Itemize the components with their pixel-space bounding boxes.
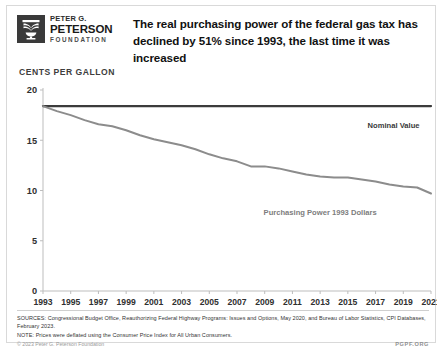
svg-text:0: 0 — [32, 286, 37, 296]
methodology-note: NOTE: Prices were deflated using the Con… — [17, 331, 429, 339]
sources-note: SOURCES: Congressional Budget Office, Re… — [17, 314, 429, 331]
brand-line-3: FOUNDATION — [50, 37, 112, 43]
svg-text:10: 10 — [27, 186, 37, 196]
svg-text:15: 15 — [27, 136, 37, 146]
svg-text:2019: 2019 — [394, 297, 413, 307]
svg-text:Nominal Value: Nominal Value — [368, 121, 420, 130]
chart-title: The real purchasing power of the federal… — [133, 16, 425, 66]
svg-text:1997: 1997 — [89, 297, 108, 307]
svg-text:2015: 2015 — [338, 297, 357, 307]
svg-text:1993: 1993 — [33, 297, 52, 307]
svg-text:1995: 1995 — [61, 297, 80, 307]
chart-header: PETER G. PETERSON FOUNDATION The real pu… — [7, 6, 435, 58]
footer-bottom-row: © 2023 Peter G. Peterson Foundation PGPF… — [17, 341, 429, 347]
svg-text:2001: 2001 — [144, 297, 163, 307]
svg-text:2009: 2009 — [255, 297, 274, 307]
y-axis-caption: Cents Per Gallon — [19, 67, 115, 77]
svg-text:2007: 2007 — [227, 297, 246, 307]
svg-text:2003: 2003 — [172, 297, 191, 307]
svg-text:2005: 2005 — [200, 297, 219, 307]
svg-text:2021: 2021 — [421, 297, 437, 307]
brand-line-2: PETERSON — [50, 24, 112, 36]
brand-wordmark: PETER G. PETERSON FOUNDATION — [50, 15, 112, 43]
svg-text:20: 20 — [27, 85, 37, 95]
svg-text:5: 5 — [32, 236, 37, 246]
svg-text:2011: 2011 — [283, 297, 302, 307]
brand-line-1: PETER G. — [50, 15, 112, 23]
footnote-divider — [17, 310, 429, 311]
svg-text:2017: 2017 — [366, 297, 385, 307]
svg-text:Purchasing Power 1993 Dollars: Purchasing Power 1993 Dollars — [264, 208, 377, 217]
svg-text:1999: 1999 — [117, 297, 136, 307]
peterson-foundation-logo-icon — [17, 15, 45, 43]
chart-footnotes: SOURCES: Congressional Budget Office, Re… — [17, 310, 429, 347]
chart-card: PETER G. PETERSON FOUNDATION The real pu… — [6, 5, 436, 343]
screenshot-root: PETER G. PETERSON FOUNDATION The real pu… — [0, 0, 442, 360]
svg-text:2013: 2013 — [311, 297, 330, 307]
site-url: PGPF.ORG — [395, 341, 429, 347]
copyright-text: © 2023 Peter G. Peterson Foundation — [17, 341, 104, 347]
brand-logo: PETER G. PETERSON FOUNDATION — [17, 15, 112, 43]
